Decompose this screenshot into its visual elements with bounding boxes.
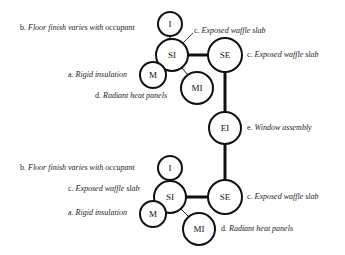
svg-text:SE: SE	[220, 50, 231, 60]
node-mi-top: MI	[181, 72, 213, 104]
label-key: b.	[20, 163, 26, 172]
svg-text:SE: SE	[220, 192, 231, 202]
svg-text:I: I	[169, 163, 172, 173]
system-diagram: I SI M MI SE EI I SI	[0, 0, 345, 255]
svg-text:EI: EI	[221, 123, 230, 133]
svg-text:MI: MI	[192, 83, 203, 93]
label-key: e.	[247, 123, 253, 132]
svg-text:MI: MI	[194, 224, 205, 234]
label-key: c.	[194, 26, 200, 35]
label-key: b.	[20, 23, 26, 32]
label-a-top: a. Rigid insulation	[68, 71, 127, 79]
label-text: Floor finish varies with occupant	[28, 23, 135, 32]
label-d-bottom: d. Radiant heat panels	[221, 225, 293, 233]
label-text: Rigid insulation	[76, 70, 127, 79]
svg-text:SI: SI	[166, 192, 174, 202]
label-key: a.	[68, 208, 74, 217]
label-text: Exposed waffle slab	[255, 50, 319, 59]
label-key: d.	[95, 91, 101, 100]
node-i-bottom: I	[158, 156, 182, 180]
label-text: Window assembly	[255, 123, 312, 132]
node-ei: EI	[209, 112, 241, 144]
label-text: Rigid insulation	[76, 208, 127, 217]
label-text: Exposed waffle slab	[202, 26, 266, 35]
label-c-se-bottom: c. Exposed waffle slab	[247, 193, 319, 201]
label-text: Exposed waffle slab	[76, 184, 140, 193]
label-c-se-top: c. Exposed waffle slab	[247, 51, 319, 59]
label-key: c.	[68, 184, 74, 193]
label-text: Floor finish varies with occupant	[28, 163, 135, 172]
label-key: c.	[247, 50, 253, 59]
node-se-top: SE	[208, 38, 242, 72]
svg-text:M: M	[149, 209, 157, 219]
connector-si-mi-bottom	[181, 209, 188, 216]
label-key: d.	[221, 224, 227, 233]
label-text: Radiant heat panels	[229, 224, 293, 233]
label-d-top: d. Radiant heat panels	[95, 92, 167, 100]
svg-text:I: I	[169, 19, 172, 29]
label-b-top: b. Floor finish varies with occupant	[20, 24, 135, 32]
label-text: Radiant heat panels	[103, 91, 167, 100]
label-c-si-bottom: c. Exposed waffle slab	[68, 185, 140, 193]
node-se-bottom: SE	[208, 180, 242, 214]
label-key: c.	[247, 192, 253, 201]
label-text: Exposed waffle slab	[255, 192, 319, 201]
node-m-bottom: M	[140, 201, 166, 227]
label-key: a.	[68, 70, 74, 79]
node-i-top: I	[158, 12, 182, 36]
leader-c-top	[183, 33, 193, 43]
node-m-top: M	[140, 62, 166, 88]
label-b-bottom: b. Floor finish varies with occupant	[20, 164, 135, 172]
node-mi-bottom: MI	[183, 213, 215, 245]
label-e: e. Window assembly	[247, 124, 312, 132]
label-a-bottom: a. Rigid insulation	[68, 209, 127, 217]
svg-text:M: M	[149, 70, 157, 80]
svg-text:SI: SI	[168, 50, 176, 60]
label-c-si-top: c. Exposed waffle slab	[194, 27, 266, 35]
connector-si-mi-top	[182, 68, 188, 75]
